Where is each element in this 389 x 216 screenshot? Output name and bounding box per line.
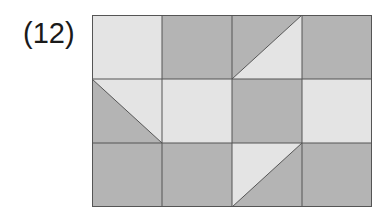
tile-r2-c2 xyxy=(162,79,232,143)
tile-r2-c1 xyxy=(92,79,162,143)
tile-r3-c1 xyxy=(92,143,162,207)
tile-r2-c4 xyxy=(302,79,372,143)
tile-grid-canvas xyxy=(92,15,372,207)
tile-r1-c1 xyxy=(92,15,162,79)
tile-r3-c3 xyxy=(232,143,302,207)
tile-r3-c2 xyxy=(162,143,232,207)
tile-grid xyxy=(92,15,372,207)
tile-r1-c3 xyxy=(232,15,302,79)
figure-label: (12) xyxy=(23,19,75,48)
tile-r1-c2 xyxy=(162,15,232,79)
tile-r1-c4 xyxy=(302,15,372,79)
tile-r3-c4 xyxy=(302,143,372,207)
tile-r2-c3 xyxy=(232,79,302,143)
